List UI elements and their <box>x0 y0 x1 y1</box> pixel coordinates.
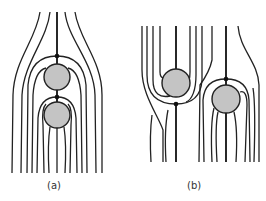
panel-a-sphere-top <box>44 64 70 90</box>
panel-b-stagnation-point-left <box>174 102 179 107</box>
panel-a-stagnation-point-top <box>55 54 60 59</box>
panel-a-sphere-bottom <box>44 102 70 128</box>
panel-a-label: (a) <box>47 180 61 191</box>
panel-b-sphere-left <box>162 69 190 97</box>
panel-b-streamlines <box>142 26 259 162</box>
streamline-diagram <box>0 0 266 201</box>
panel-a-stagnation-point-mid <box>55 95 60 100</box>
panel-b-sphere-right <box>212 85 240 113</box>
panel-b-stagnation-point-right <box>224 77 229 82</box>
panel-b-label: (b) <box>187 180 201 191</box>
